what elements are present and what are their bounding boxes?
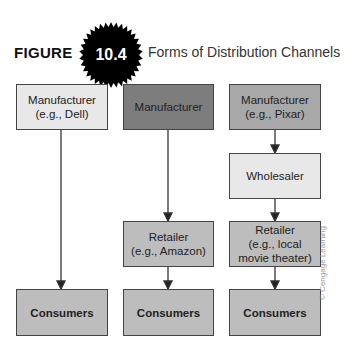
col1-manufacturer-example: (e.g., Dell): [28, 107, 96, 121]
col2-consumers-box: Consumers: [123, 289, 214, 336]
col3-retailer-example-1: (e.g., local: [238, 237, 312, 251]
copyright-credit: © Cengage Learning: [318, 226, 327, 300]
col2-retailer-label: Retailer: [131, 230, 206, 244]
col1-consumers-label: Consumers: [30, 306, 93, 320]
col3-consumers-label: Consumers: [243, 306, 306, 320]
col3-retailer-example-2: movie theater): [238, 251, 312, 265]
col2-retailer-example: (e.g., Amazon): [131, 244, 206, 258]
col3-manufacturer-example: (e.g., Pixar): [241, 107, 309, 121]
col1-manufacturer-box: Manufacturer (e.g., Dell): [16, 84, 108, 130]
col3-retailer-box: Retailer (e.g., local movie theater): [229, 221, 321, 267]
col1-manufacturer-label: Manufacturer: [28, 93, 96, 107]
col3-consumers-box: Consumers: [229, 289, 321, 336]
col3-wholesaler-box: Wholesaler: [229, 153, 321, 199]
col1-consumers-box: Consumers: [16, 289, 108, 336]
col3-retailer-label: Retailer: [238, 223, 312, 237]
col3-manufacturer-label: Manufacturer: [241, 93, 309, 107]
col3-manufacturer-box: Manufacturer (e.g., Pixar): [229, 84, 321, 130]
col2-manufacturer-box: Manufacturer: [123, 84, 214, 130]
col2-manufacturer-label: Manufacturer: [135, 100, 203, 114]
col3-wholesaler-label: Wholesaler: [246, 169, 304, 183]
col2-consumers-label: Consumers: [137, 306, 200, 320]
col2-retailer-box: Retailer (e.g., Amazon): [123, 221, 214, 267]
